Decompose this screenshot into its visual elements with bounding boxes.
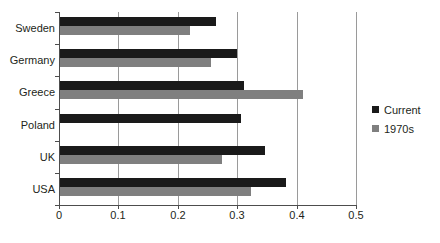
bar-greece-1970s [59, 90, 303, 99]
y-axis-tick [55, 12, 59, 13]
x-axis-tick [237, 205, 238, 209]
y-axis-tick [55, 44, 59, 45]
category-label-uk: UK [1, 151, 55, 163]
bar-sweden-1970s [59, 26, 190, 35]
category-axis-labels: SwedenGermanyGreecePolandUKUSA [0, 12, 55, 205]
bar-group [59, 109, 356, 141]
bar-uk-current [59, 146, 265, 155]
bar-sweden-current [59, 17, 216, 26]
bar-greece-current [59, 81, 244, 90]
bar-group [59, 44, 356, 76]
category-label-poland: Poland [1, 119, 55, 131]
bar-usa-1970s [59, 187, 251, 196]
legend-swatch-icon [372, 106, 379, 113]
bar-germany-current [59, 49, 237, 58]
plot-area [59, 12, 356, 205]
bar-chart: SwedenGermanyGreecePolandUKUSA 00.10.20.… [0, 0, 440, 243]
bar-group [59, 141, 356, 173]
bar-group [59, 12, 356, 44]
x-axis-line [59, 205, 357, 206]
x-tick-label-0: 0 [39, 209, 79, 222]
x-tick-label-0.3: 0.3 [217, 209, 257, 222]
category-label-greece: Greece [1, 86, 55, 98]
legend-swatch-icon [372, 125, 379, 132]
x-axis-tick [297, 205, 298, 209]
legend-label: 1970s [384, 123, 414, 135]
y-axis-tick [55, 173, 59, 174]
x-tick-label-0.2: 0.2 [158, 209, 198, 222]
y-axis-tick [55, 76, 59, 77]
bar-usa-current [59, 178, 286, 187]
category-label-sweden: Sweden [1, 22, 55, 34]
gridline-0.5 [356, 12, 357, 205]
y-axis-tick [55, 141, 59, 142]
bar-uk-1970s [59, 155, 222, 164]
legend-item-1970s[interactable]: 1970s [372, 119, 438, 138]
x-axis-tick-labels: 00.10.20.30.40.5 [0, 209, 440, 229]
x-tick-label-0.4: 0.4 [277, 209, 317, 222]
category-label-germany: Germany [1, 54, 55, 66]
bar-germany-1970s [59, 58, 211, 67]
x-axis-tick [118, 205, 119, 209]
bar-poland-current [59, 114, 241, 123]
y-axis-line [59, 12, 60, 205]
bar-group [59, 76, 356, 108]
y-axis-tick [55, 109, 59, 110]
x-axis-tick [59, 205, 60, 209]
bar-group [59, 173, 356, 205]
x-axis-tick [356, 205, 357, 209]
x-tick-label-0.5: 0.5 [336, 209, 376, 222]
x-tick-label-0.1: 0.1 [98, 209, 138, 222]
chart-legend: Current1970s [372, 100, 438, 138]
category-label-usa: USA [1, 183, 55, 195]
legend-label: Current [384, 104, 421, 116]
legend-item-current[interactable]: Current [372, 100, 438, 119]
x-axis-tick [178, 205, 179, 209]
